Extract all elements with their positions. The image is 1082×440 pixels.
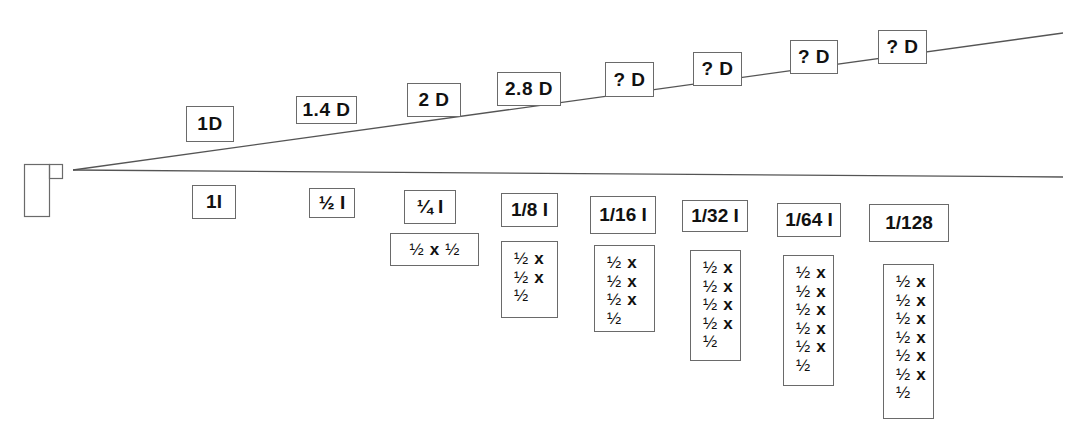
half-fraction: ½ bbox=[514, 249, 528, 268]
half-fraction: ½ bbox=[703, 277, 717, 296]
half-fraction: ½ bbox=[514, 268, 528, 287]
product-row: ½x bbox=[796, 301, 833, 320]
half-fraction: ½ bbox=[410, 240, 424, 260]
product-row: ½ bbox=[703, 333, 740, 352]
half-fraction: ½ bbox=[796, 300, 810, 319]
half-fraction: ½ bbox=[703, 258, 717, 277]
half-fraction: ½ bbox=[703, 295, 717, 314]
times-sign: x bbox=[816, 263, 825, 282]
times-sign: x bbox=[916, 365, 925, 384]
times-sign: x bbox=[723, 258, 732, 277]
product-row: ½ bbox=[796, 357, 833, 376]
times-sign: x bbox=[723, 277, 732, 296]
half-fraction: ½ bbox=[896, 383, 910, 402]
product-row: ½x bbox=[514, 269, 557, 288]
times-sign: x bbox=[723, 314, 732, 333]
half-fraction: ½ bbox=[896, 291, 910, 310]
product-row: ½ bbox=[607, 310, 654, 329]
distance-label: ? D bbox=[878, 30, 927, 64]
product-row: ½x bbox=[703, 259, 740, 278]
product-row: ½x bbox=[703, 315, 740, 334]
product-row: ½x bbox=[796, 320, 833, 339]
times-sign: x bbox=[916, 291, 925, 310]
half-fraction: ½ bbox=[896, 328, 910, 347]
times-sign: x bbox=[430, 240, 439, 260]
distance-label: ? D bbox=[605, 62, 654, 97]
half-fraction: ½ bbox=[896, 272, 910, 291]
beam-lower-edge bbox=[73, 170, 1063, 177]
distance-label: 1D bbox=[186, 106, 234, 142]
product-row: ½x bbox=[607, 291, 654, 310]
quarter-product-box: ½ x ½ bbox=[390, 233, 479, 266]
distance-label: ? D bbox=[790, 40, 838, 74]
product-row: ½x bbox=[796, 283, 833, 302]
times-sign: x bbox=[627, 290, 636, 309]
half-fraction: ½ bbox=[796, 282, 810, 301]
product-row: ½x bbox=[896, 347, 933, 366]
product-row: ½x bbox=[607, 254, 654, 273]
times-sign: x bbox=[627, 253, 636, 272]
times-sign: x bbox=[816, 300, 825, 319]
times-sign: x bbox=[916, 328, 925, 347]
half-fraction: ½ bbox=[514, 286, 528, 305]
product-stack: ½x½x½ bbox=[501, 241, 558, 318]
product-row: ½ bbox=[514, 287, 557, 306]
half-fraction: ½ bbox=[703, 314, 717, 333]
product-stack: ½x½x½x½x½x½x½ bbox=[883, 264, 934, 419]
distance-label: 2.8 D bbox=[497, 72, 561, 106]
half-fraction: ½ bbox=[796, 319, 810, 338]
half-fraction: ½ bbox=[896, 309, 910, 328]
intensity-label: 1/64 I bbox=[777, 203, 841, 237]
product-row: ½x bbox=[514, 250, 557, 269]
times-sign: x bbox=[723, 295, 732, 314]
product-stack: ½x½x½x½ bbox=[594, 245, 655, 332]
times-sign: x bbox=[816, 337, 825, 356]
half-fraction: ½ bbox=[703, 332, 717, 351]
half-fraction: ½ bbox=[796, 337, 810, 356]
half-fraction: ½ bbox=[796, 356, 810, 375]
times-sign: x bbox=[916, 272, 925, 291]
times-sign: x bbox=[916, 346, 925, 365]
product-row: ½x bbox=[896, 310, 933, 329]
product-row: ½x bbox=[607, 273, 654, 292]
times-sign: x bbox=[816, 282, 825, 301]
intensity-label: 1/16 I bbox=[590, 196, 656, 234]
times-sign: x bbox=[534, 249, 543, 268]
intensity-label: ½ I bbox=[309, 188, 355, 218]
intensity-label: 1I bbox=[192, 185, 236, 219]
times-sign: x bbox=[916, 309, 925, 328]
product-stack: ½x½x½x½x½x½ bbox=[783, 255, 834, 386]
half-fraction: ½ bbox=[896, 346, 910, 365]
distance-label: ? D bbox=[693, 52, 742, 86]
product-row: ½x bbox=[896, 292, 933, 311]
half-fraction: ½ bbox=[896, 365, 910, 384]
times-sign: x bbox=[627, 272, 636, 291]
product-row: ½x bbox=[796, 264, 833, 283]
product-row: ½x bbox=[896, 273, 933, 292]
product-row: ½ bbox=[896, 384, 933, 403]
product-row: ½x bbox=[703, 278, 740, 297]
half-fraction: ½ bbox=[607, 272, 621, 291]
distance-label: 2 D bbox=[407, 83, 461, 117]
product-row: ½x bbox=[896, 329, 933, 348]
half-fraction: ½ bbox=[607, 253, 621, 272]
half-fraction: ½ bbox=[607, 309, 621, 328]
half-fraction: ½ bbox=[796, 263, 810, 282]
inverse-square-diagram: 1D1.4 D2 D2.8 D? D? D? D? D 1I½ I¼ I1/8 … bbox=[0, 0, 1082, 440]
intensity-label: ¼ I bbox=[404, 190, 456, 224]
half-fraction: ½ bbox=[607, 290, 621, 309]
product-stack: ½x½x½x½x½ bbox=[690, 250, 741, 361]
product-row: ½x bbox=[796, 338, 833, 357]
distance-label: 1.4 D bbox=[296, 96, 357, 124]
projector-icon bbox=[25, 165, 63, 217]
intensity-label: 1/32 I bbox=[682, 200, 748, 232]
product-row: ½x bbox=[703, 296, 740, 315]
half-fraction: ½ bbox=[445, 240, 459, 260]
intensity-label: 1/128 bbox=[869, 204, 949, 242]
times-sign: x bbox=[534, 268, 543, 287]
times-sign: x bbox=[816, 319, 825, 338]
product-row: ½x bbox=[896, 366, 933, 385]
intensity-label: 1/8 I bbox=[501, 193, 558, 227]
